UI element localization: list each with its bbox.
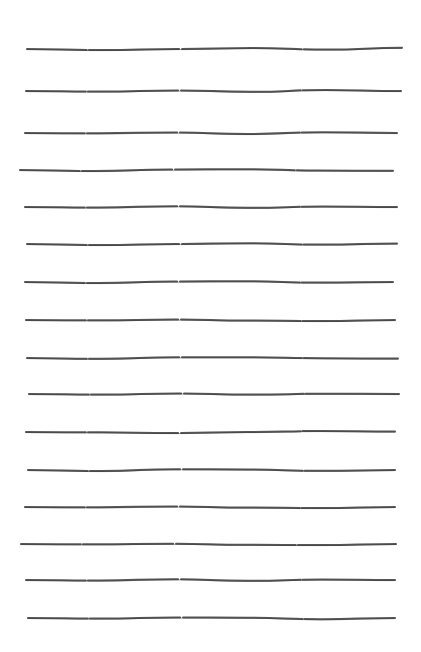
ruled-lines-sheet: [0, 0, 421, 652]
paper-background: [0, 0, 421, 652]
